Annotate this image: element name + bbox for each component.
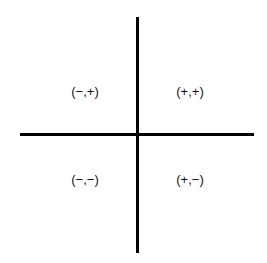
quadrant-2-label: (−,+) [55,84,115,100]
quadrant-3-label: (−,−) [55,172,115,188]
quadrant-1-label: (+,+) [160,84,220,100]
quadrant-4-label: (+,−) [160,172,220,188]
x-axis-line [20,133,254,136]
